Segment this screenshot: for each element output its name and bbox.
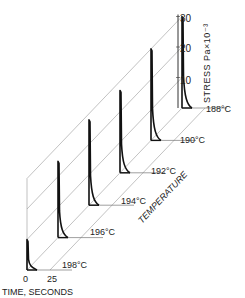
temp-label-188: 188°C [206, 104, 232, 114]
grid-line-10 [27, 78, 182, 240]
x-tick-25: 25 [47, 274, 57, 284]
waterfall-chart: 30 20 10 STRESS Pa×10⁻³ 188°C 190°C 192°… [0, 0, 245, 298]
temp-label-196: 196°C [90, 227, 116, 237]
temp-label-198: 198°C [62, 260, 88, 270]
grid-line-0 [27, 108, 182, 270]
y-tick-20: 20 [180, 43, 192, 54]
y-tick-30: 30 [180, 13, 192, 24]
temp-label-190: 190°C [180, 135, 206, 145]
grid-lines [27, 15, 205, 271]
y-tick-10: 10 [180, 75, 192, 86]
grid-line-30 [27, 17, 182, 179]
x-tick-0: 0 [23, 274, 28, 284]
x-axis-label: TIME, SECONDS [2, 287, 73, 297]
temp-label-194: 194°C [121, 196, 147, 206]
y-axis-label: STRESS Pa×10⁻³ [202, 23, 212, 103]
grid-line-20 [27, 47, 182, 209]
base-lines [27, 108, 227, 270]
temp-label-192: 192°C [151, 166, 177, 176]
